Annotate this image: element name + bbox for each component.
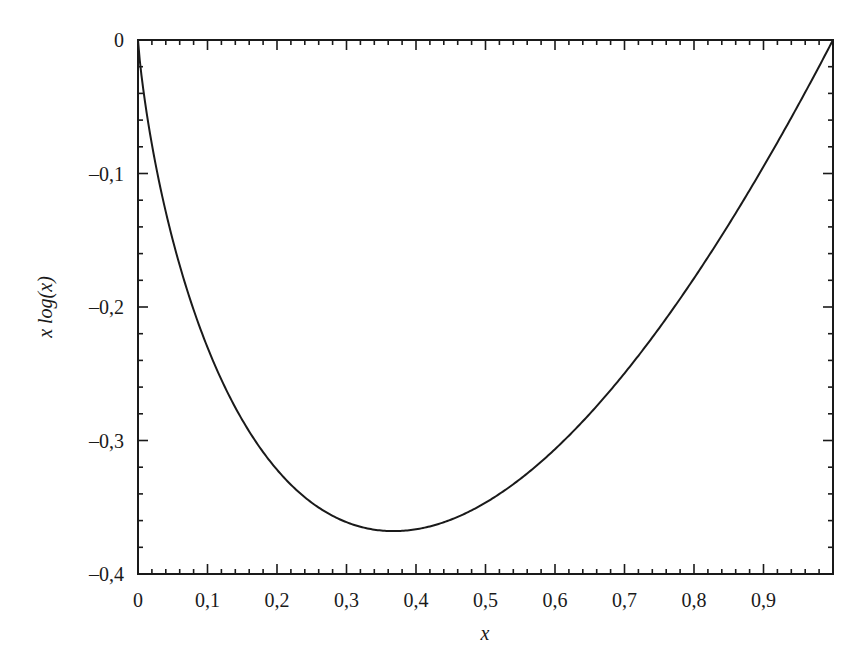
y-tick-label: –0,2 — [88, 296, 124, 318]
x-tick-label: 0,2 — [265, 589, 290, 611]
x-tick-labels: 00,10,20,30,40,50,60,70,80,9 — [133, 589, 776, 611]
x-tick-label: 0 — [133, 589, 143, 611]
data-series-xlogx — [138, 40, 833, 531]
y-tick-label: –0,3 — [88, 430, 124, 452]
x-tick-label: 0,7 — [612, 589, 637, 611]
chart-canvas: 00,10,20,30,40,50,60,70,80,9 0–0,1–0,2–0… — [0, 0, 864, 667]
x-tick-label: 0,1 — [195, 589, 220, 611]
y-tick-label: –0,4 — [88, 563, 124, 585]
x-tick-label: 0,9 — [751, 589, 776, 611]
y-tick-labels: 0–0,1–0,2–0,3–0,4 — [88, 29, 124, 585]
y-tick-label: 0 — [114, 29, 124, 51]
y-axis-label: x log(x) — [34, 276, 57, 339]
plot-frame — [138, 40, 833, 574]
axis-ticks — [138, 40, 833, 574]
y-tick-label: –0,1 — [88, 163, 124, 185]
x-tick-label: 0,4 — [404, 589, 429, 611]
x-tick-label: 0,6 — [543, 589, 568, 611]
x-tick-label: 0,3 — [334, 589, 359, 611]
x-axis-label: x — [480, 622, 490, 644]
x-tick-label: 0,8 — [682, 589, 707, 611]
x-tick-label: 0,5 — [473, 589, 498, 611]
